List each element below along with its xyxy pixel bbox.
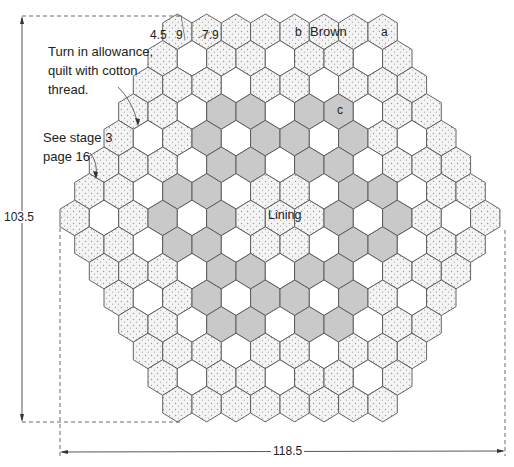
annotation-line: quilt with cotton [48, 61, 153, 80]
arrow-down-icon [20, 414, 24, 422]
fabric-label-brown: Brown [310, 25, 347, 38]
dimension-label-4-5: 4.5 [150, 29, 167, 41]
fabric-label-b: b [295, 26, 302, 38]
arrow-left-icon [60, 450, 68, 454]
arrow-up-icon [20, 16, 24, 24]
annotation-see-stage-3: See stage 3 page 16 [43, 128, 112, 166]
dimension-label-9: 9 [176, 29, 183, 41]
dimension-label-7-9: 7.9 [202, 29, 219, 41]
annotation-line: Turn in allowance, [48, 42, 153, 61]
annotation-line: See stage 3 [43, 128, 112, 147]
fabric-label-c: c [337, 104, 343, 116]
height-dimension-label: 103.5 [2, 211, 36, 223]
annotation-turn-in-allowance: Turn in allowance, quilt with cotton thr… [48, 42, 153, 99]
annotation-line: page 16 [43, 147, 112, 166]
lining-label: Lining [268, 209, 301, 222]
width-dimension-label: 118.5 [271, 445, 304, 457]
fabric-label-a: a [381, 26, 388, 38]
annotation-line: thread. [48, 80, 153, 99]
arrow-right-icon [497, 449, 505, 453]
